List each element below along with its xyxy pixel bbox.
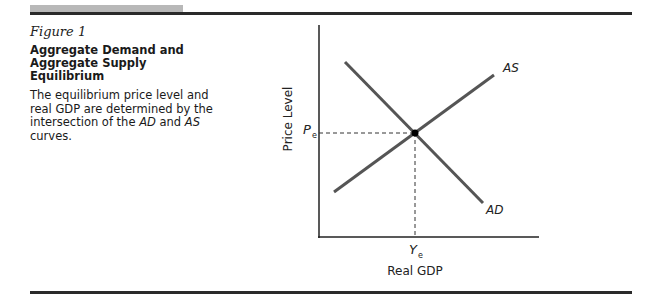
ye-label: Y — [409, 242, 418, 257]
ad-label: AD — [485, 203, 503, 217]
pe-subscript: e — [312, 131, 317, 140]
equilibrium-point — [412, 130, 419, 137]
pe-label: P — [303, 122, 311, 137]
x-axis-title: Real GDP — [387, 264, 442, 278]
ad-as-diagram: AS AD P e Y e Real GDP Price Level — [0, 0, 656, 298]
as-label: AS — [502, 61, 519, 75]
bottom-rule — [30, 291, 632, 294]
ye-subscript: e — [418, 251, 423, 260]
y-axis-title: Price Level — [281, 87, 295, 152]
